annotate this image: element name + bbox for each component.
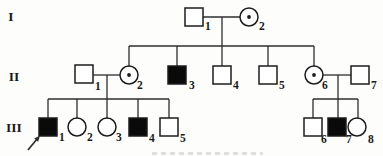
individual-number-II-5: 5 (279, 79, 285, 91)
individual-number-III-5: 5 (180, 132, 186, 144)
individual-number-II-4: 4 (233, 79, 239, 91)
individual-number-III-3: 3 (116, 131, 122, 143)
carrier-dot-II-6 (312, 73, 316, 77)
individual-number-II-3: 3 (189, 79, 195, 91)
symbol-II-4-male-unaffected (213, 66, 231, 84)
pedigree-chart: 12123456712345678IIIIII (0, 0, 383, 156)
individual-number-III-2: 2 (87, 131, 93, 143)
carrier-dot-I-2 (247, 15, 251, 19)
symbol-II-3-male-affected (168, 66, 186, 84)
generation-label-III: III (6, 120, 22, 135)
symbol-III-5-male-unaffected (160, 118, 178, 136)
symbol-III-7-male-affected (328, 118, 346, 136)
individual-number-II-7: 7 (371, 79, 377, 91)
individual-number-I-1: 1 (205, 20, 211, 32)
symbol-II-1-male-unaffected (75, 65, 93, 83)
individual-number-III-1: 1 (59, 131, 65, 143)
individual-number-II-6: 6 (322, 79, 328, 91)
symbol-II-5-male-unaffected (259, 66, 277, 84)
generation-label-I: I (8, 9, 13, 24)
individual-number-III-7: 7 (346, 133, 352, 145)
individual-number-III-4: 4 (149, 132, 155, 144)
individual-number-III-8: 8 (368, 133, 374, 145)
symbol-III-3-female-unaffected (98, 118, 116, 136)
individual-number-III-6: 6 (321, 133, 327, 145)
symbol-II-7-male-unaffected (351, 66, 369, 84)
symbol-III-2-female-unaffected (68, 118, 86, 136)
individual-number-I-2: 2 (259, 20, 265, 32)
symbol-III-1-male-affected (39, 118, 57, 136)
carrier-dot-II-2 (127, 73, 131, 77)
individual-number-II-2: 2 (137, 79, 143, 91)
generation-label-II: II (9, 69, 20, 84)
pedigree-svg: 12123456712345678IIIIII (0, 0, 383, 156)
proband-arrow-shaft (28, 139, 37, 150)
individual-number-II-1: 1 (95, 80, 101, 92)
symbol-III-8-female-unaffected (348, 118, 366, 136)
symbol-I-1-male-unaffected (185, 8, 203, 26)
symbol-III-4-male-affected (129, 118, 147, 136)
symbol-III-6-male-unaffected (304, 118, 322, 136)
